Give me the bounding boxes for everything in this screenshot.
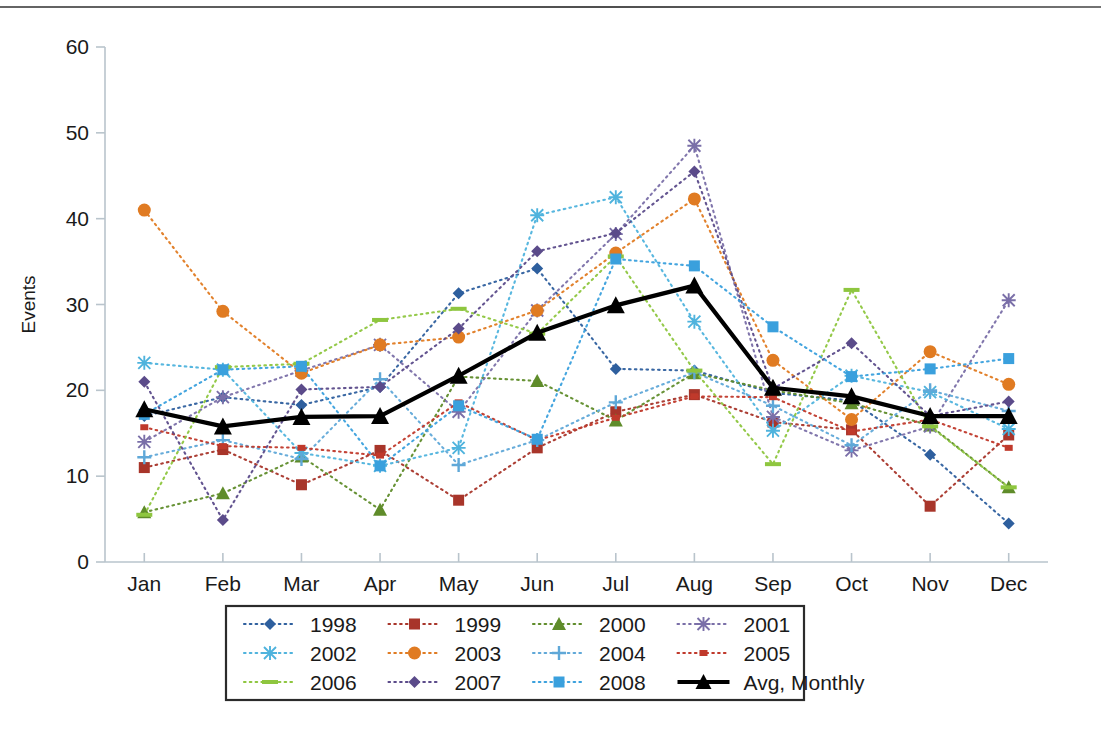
marker-triangle bbox=[530, 374, 544, 387]
marker-dash bbox=[922, 424, 938, 428]
legend-item-label: 1999 bbox=[455, 613, 502, 636]
legend-item-label: 1998 bbox=[310, 613, 357, 636]
series-line bbox=[144, 197, 1008, 466]
marker-diamond bbox=[610, 363, 622, 375]
marker-square bbox=[375, 460, 386, 471]
chart-canvas: 0102030405060EventsJanFebMarAprMayJunJul… bbox=[0, 0, 1101, 737]
marker-square bbox=[409, 619, 420, 630]
y-tick-label: 10 bbox=[66, 464, 89, 487]
marker-small-square bbox=[690, 393, 698, 399]
avg-monthly-line bbox=[144, 286, 1008, 427]
marker-star bbox=[687, 315, 701, 329]
legend-item-label: 2008 bbox=[599, 671, 646, 694]
chart-legend: 1998199920002001200220032004200520062007… bbox=[226, 606, 865, 700]
marker-dash bbox=[136, 513, 152, 517]
marker-square bbox=[453, 495, 464, 506]
marker-diamond bbox=[453, 287, 465, 299]
marker-star bbox=[766, 424, 780, 438]
marker-dash bbox=[1001, 485, 1017, 489]
y-tick-label: 20 bbox=[66, 378, 89, 401]
series-1998 bbox=[138, 262, 1014, 529]
marker-small-square bbox=[376, 453, 384, 459]
marker-circle bbox=[924, 345, 937, 358]
legend-item-label: Avg, Monthly bbox=[744, 671, 866, 694]
marker-small-square bbox=[140, 424, 148, 430]
series-line bbox=[144, 259, 1008, 466]
x-tick-label: Jul bbox=[602, 572, 629, 595]
x-tick-label: Sep bbox=[754, 572, 791, 595]
marker-triangle bbox=[450, 367, 468, 384]
series-line bbox=[144, 256, 1008, 514]
marker-star bbox=[263, 646, 277, 660]
legend-item-label: 2007 bbox=[455, 671, 502, 694]
legend-item-label: 2003 bbox=[455, 642, 502, 665]
marker-diamond bbox=[138, 376, 150, 388]
legend-item-label: 2006 bbox=[310, 671, 357, 694]
marker-circle bbox=[766, 354, 779, 367]
marker-circle bbox=[531, 304, 544, 317]
y-axis-title: Events bbox=[18, 275, 39, 333]
marker-circle bbox=[138, 204, 151, 217]
marker-square bbox=[532, 434, 543, 445]
x-tick-label: Jan bbox=[127, 572, 161, 595]
legend-item-label: 2004 bbox=[599, 642, 646, 665]
marker-small-square bbox=[612, 415, 620, 421]
marker-square bbox=[925, 363, 936, 374]
marker-triangle bbox=[216, 486, 230, 499]
y-tick-label: 50 bbox=[66, 121, 89, 144]
legend-item-label: 2001 bbox=[744, 613, 791, 636]
marker-star bbox=[137, 435, 151, 449]
marker-circle bbox=[688, 192, 701, 205]
marker-square bbox=[296, 361, 307, 372]
marker-dash bbox=[686, 369, 702, 373]
marker-square bbox=[296, 479, 307, 490]
x-tick-label: Nov bbox=[911, 572, 949, 595]
marker-square bbox=[689, 260, 700, 271]
marker-dash bbox=[262, 680, 278, 684]
series-2001 bbox=[137, 139, 1015, 458]
x-tick-label: Feb bbox=[205, 572, 241, 595]
marker-circle bbox=[845, 413, 858, 426]
series-2007 bbox=[138, 165, 1014, 525]
x-tick-label: Apr bbox=[364, 572, 397, 595]
marker-circle bbox=[408, 647, 421, 660]
y-tick-label: 40 bbox=[66, 207, 89, 230]
y-tick-label: 30 bbox=[66, 293, 89, 316]
marker-square bbox=[925, 501, 936, 512]
marker-dash bbox=[844, 288, 860, 292]
marker-triangle bbox=[373, 503, 387, 516]
series-line bbox=[144, 171, 1008, 519]
marker-square bbox=[1003, 353, 1014, 364]
series-2008 bbox=[139, 254, 1014, 472]
marker-square bbox=[217, 364, 228, 375]
marker-star bbox=[687, 139, 701, 153]
y-tick-label: 60 bbox=[66, 35, 89, 58]
marker-circle bbox=[216, 305, 229, 318]
marker-square bbox=[554, 677, 565, 688]
series-2006 bbox=[136, 254, 1016, 516]
marker-diamond bbox=[846, 337, 858, 349]
marker-circle bbox=[374, 338, 387, 351]
legend-item-label: 2000 bbox=[599, 613, 646, 636]
marker-small-square bbox=[297, 445, 305, 451]
scan-edge-rule bbox=[0, 6, 1101, 8]
x-tick-label: Dec bbox=[990, 572, 1027, 595]
marker-square bbox=[610, 254, 621, 265]
marker-dash bbox=[451, 307, 467, 311]
marker-small-square bbox=[700, 650, 708, 656]
x-tick-label: Mar bbox=[283, 572, 319, 595]
marker-diamond bbox=[295, 383, 307, 395]
marker-star bbox=[137, 356, 151, 370]
marker-small-square bbox=[219, 443, 227, 449]
events-by-month-chart: 0102030405060EventsJanFebMarAprMayJunJul… bbox=[0, 0, 1101, 737]
series-line bbox=[144, 373, 1008, 512]
series-line bbox=[144, 199, 1008, 420]
legend-item-label: 2002 bbox=[310, 642, 357, 665]
marker-square bbox=[453, 400, 464, 411]
marker-star bbox=[1002, 293, 1016, 307]
x-tick-label: Aug bbox=[676, 572, 713, 595]
marker-star bbox=[697, 617, 711, 631]
marker-dash bbox=[765, 462, 781, 466]
y-tick-label: 0 bbox=[77, 550, 89, 573]
marker-diamond bbox=[1003, 395, 1015, 407]
